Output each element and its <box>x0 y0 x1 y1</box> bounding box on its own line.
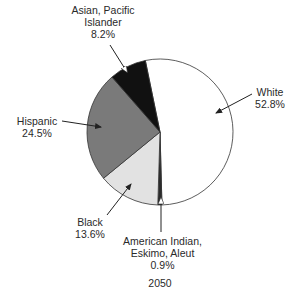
label-black-pct: 13.6% <box>72 228 108 240</box>
label-asian-name: Asian, Pacific <box>68 4 138 16</box>
label-asian-pct: 8.2% <box>68 28 138 40</box>
label-ai-name: American Indian, <box>115 235 210 247</box>
label-ai-name-2: Eskimo, Aleut <box>115 247 210 259</box>
label-asian-name-2: Islander <box>68 16 138 28</box>
chart-title-year: 2050 <box>135 277 185 289</box>
label-hispanic-pct: 24.5% <box>12 127 62 139</box>
label-black-name: Black <box>72 216 108 228</box>
arrow-asian <box>110 45 127 72</box>
label-hispanic-name: Hispanic <box>12 115 62 127</box>
label-ai-pct: 0.9% <box>115 259 210 271</box>
label-asian: Asian, Pacific Islander 8.2% <box>68 4 138 40</box>
label-hispanic: Hispanic 24.5% <box>12 115 62 139</box>
label-american-indian: American Indian, Eskimo, Aleut 0.9% <box>115 235 210 271</box>
label-black: Black 13.6% <box>72 216 108 240</box>
pie-slices <box>87 59 233 205</box>
label-white: White 52.8% <box>250 86 290 110</box>
label-white-pct: 52.8% <box>250 98 290 110</box>
label-white-name: White <box>250 86 290 98</box>
